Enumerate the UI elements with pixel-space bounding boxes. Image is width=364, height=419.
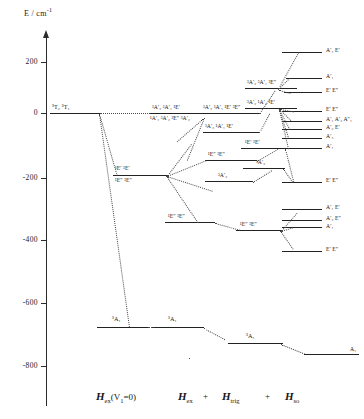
level-r-3Ap2-3Ap1-3Epp (245, 88, 297, 89)
caption-v-open: (V (111, 392, 121, 402)
script-h-1: H (96, 390, 105, 402)
label-3Ap2-col3: ³A′₂ (218, 173, 227, 179)
connector-r-so-m (280, 231, 293, 250)
label-r-3Ap2-1Ap1-1Ep: ³A′₂ ¹A′₁ ¹E′ (247, 100, 275, 106)
label-r-3Ap2-3Ap1-3Epp: ³A′₂ ³A′₁ ³E″ (247, 80, 276, 86)
y-tick-200 (41, 62, 47, 63)
connector-a1-left-mid (148, 327, 154, 328)
connector-c3-r-c (257, 149, 278, 162)
y-tick-label-minus600: -600 (0, 298, 38, 307)
y-tick-minus600 (41, 303, 47, 304)
sub-so: so (294, 397, 300, 404)
label-3A1-mid: ³A₁ (168, 316, 177, 322)
connector-c3-r-d (253, 170, 272, 183)
y-tick-label-minus400: -400 (0, 235, 38, 244)
caption-hso: Hso (285, 390, 299, 404)
connector-c3-r-e (215, 223, 240, 231)
operator-plus-2: + (265, 391, 270, 401)
label-3Ap2-3Ap1-1Ep: ³A′₂ ³A′₁ ¹E′ (152, 105, 180, 111)
level-1Epp-3Epp-col3 (205, 160, 257, 161)
label-so-Ap1-Ep-2: A′₁ E′ (326, 205, 340, 211)
y-tick-minus200 (41, 178, 47, 179)
level-3Ap2-col3 (205, 181, 253, 182)
label-so-Ep-Epp-4: E′ E″ (326, 247, 338, 253)
label-3Ap2-3Ap1-1Ep-3Epp: ³A′₂ ³A′₁ ¹E′ ³E″ (203, 105, 240, 111)
level-3Ap2-3Ap1-1Ep (150, 113, 205, 114)
connector-r-so-a (278, 52, 299, 89)
label-1Epp-3Epp-lower-col3: ¹E″ ³E″ (168, 214, 185, 220)
label-so-Ap1-Ap3-App1: A′₁ A′₃ A″₁ (326, 117, 352, 123)
y-tick-label-minus200: -200 (0, 173, 38, 182)
connector-ground-step (281, 344, 305, 355)
label-so-Ep-Epp-2: E′ E″ (326, 107, 338, 113)
y-tick-minus800 (41, 366, 47, 367)
label-so-Ep-Epp-3: E′ E″ (326, 178, 338, 184)
level-3T2-3T1 (50, 113, 100, 114)
level-3Ap2-1Ap1-1Ep (203, 132, 259, 133)
scan-speck (189, 358, 190, 359)
label-1Epp-3Epp-col2: ¹E″ ³E″ (115, 178, 132, 184)
script-h-3: H (222, 390, 231, 402)
level-r-1Ep-3Ep (241, 148, 287, 149)
level-so-Ap1-Ep (282, 52, 322, 53)
connector-t-to-a1-left (99, 114, 130, 327)
level-ground-A1 (304, 354, 359, 355)
y-tick-label-0: 0 (0, 108, 38, 117)
label-so-Ap2-Ep: A′₂ E′ (326, 125, 340, 131)
level-so-Ap1-Ap3-App1 (282, 121, 322, 122)
label-ground-A1: A₁ (350, 347, 356, 353)
connector-zero-1 (100, 113, 152, 114)
y-axis-title: E / cm-1 (24, 7, 52, 18)
label-r-1Ep-3Ep: ¹E′ ³E′ (245, 140, 260, 146)
level-r-1Epp-3Epp (236, 230, 282, 231)
figure-canvas: E / cm-1 200 0 -200 -400 -600 -800 ³T₂ ³… (0, 0, 364, 419)
label-3Ap2-1Ap1-1Ep: ³A′₂ ¹A′₁ ¹E′ (205, 124, 233, 130)
label-so-Ap3: A′₃ (326, 134, 334, 140)
level-ground-step (228, 343, 283, 344)
sub-ex-2: ex (187, 397, 193, 404)
level-1Epp-3Epp-lower-col3 (165, 222, 215, 223)
label-so-Ap1-3: A′₁ (326, 224, 334, 230)
level-so-Ep-Epp-3 (282, 182, 322, 183)
label-r-1Epp-3Epp: ¹E″ ³E″ (240, 222, 257, 228)
script-h-4: H (285, 390, 294, 402)
level-r-3Ap2 (243, 168, 285, 169)
caption-v-close: =0) (123, 392, 136, 402)
label-so-Ap1: A′₁ (326, 74, 334, 80)
caption-hex: Hex (178, 390, 193, 404)
sub-trig: trig (231, 397, 240, 404)
level-so-Ap2-Ep (282, 129, 322, 130)
level-so-Ep-Epp-4 (282, 251, 322, 252)
y-axis-line (46, 36, 47, 406)
label-1Ep-3Ep-col2: ¹E′ ³E′ (115, 166, 130, 172)
level-3Ap2-3Ap1-1Ep-3Epp (203, 113, 259, 114)
level-so-Ap1 (286, 78, 322, 79)
label-so-Ep-Epp: E′ E″ (326, 88, 338, 94)
y-tick-minus400 (41, 240, 47, 241)
connector-r-so-c (279, 90, 291, 94)
connector-c2-c3-c (167, 176, 213, 192)
y-tick-0 (41, 113, 47, 114)
label-3A1-left: ³A₁ (112, 316, 121, 322)
label-1Epp-3Epp-col3: ¹E″ ³E″ (208, 152, 225, 158)
label-1Ap1-3Ap2-3Epp-3Ap2: ¹A′₁ ³A′₂ ³E″ ³A′₂ (150, 116, 190, 122)
level-3A1-left (97, 327, 149, 328)
connector-c3-r-b (259, 114, 270, 134)
operator-plus-1: + (203, 391, 208, 401)
label-so-Ap1-Ep: A′₁ E′ (326, 48, 340, 54)
script-h-2: H (178, 390, 187, 402)
connector-zero-to-Ep-col2 (99, 114, 118, 176)
level-so-Ap1-Ep-2 (282, 209, 322, 210)
connector-a1-step (204, 328, 226, 340)
level-1Ep-3Ep-col2 (113, 175, 167, 176)
level-3A1-mid (152, 327, 204, 328)
label-ground-step: ³A₁ (246, 333, 255, 339)
y-tick-label-200: 200 (0, 57, 38, 66)
label-3T2-3T1: ³T₂ ³T₁ (52, 104, 70, 110)
level-r-3Ap2-1Ap1-1Ep (245, 108, 297, 109)
label-so-Ap1-2: A′₁ (326, 144, 334, 150)
y-tick-label-minus800: -800 (0, 361, 38, 370)
caption-hex-v0: Hex(V1=0) (96, 390, 136, 404)
label-so-Ap2-Epp: A′₂ E″ (326, 216, 341, 222)
caption-htrig: Htrig (222, 390, 240, 404)
